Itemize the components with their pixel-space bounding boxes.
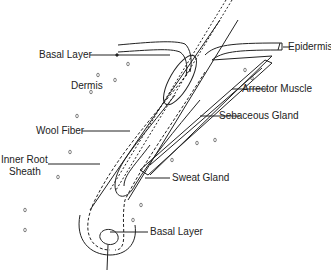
- label-basal-layer-top: Basal Layer: [39, 49, 92, 61]
- follicle-diagram: Basal Layer Epidermis Dermis Arrector Mu…: [0, 0, 331, 276]
- label-epidermis: Epidermis: [288, 41, 331, 53]
- label-inner-root-sheath-line1: Inner Root: [1, 154, 48, 166]
- label-inner-root-sheath-line2: Sheath: [9, 166, 41, 178]
- label-sebaceous-gland: Sebaceous Gland: [219, 110, 299, 122]
- label-wool-fiber: Wool Fiber: [36, 125, 84, 137]
- label-sweat-gland: Sweat Gland: [172, 172, 229, 184]
- label-dermis: Dermis: [71, 80, 103, 92]
- label-basal-layer-bottom: Basal Layer: [150, 226, 203, 238]
- label-arrector-muscle: Arrector Muscle: [242, 83, 312, 95]
